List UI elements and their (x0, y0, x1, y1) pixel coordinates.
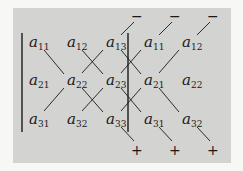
matrix-entries: a11a12a13a11a12a21a22a23a21a22a31a32a33a… (29, 33, 202, 129)
matrix-entry-e12r: a12 (182, 33, 202, 52)
matrix-entry-e22: a22 (67, 71, 87, 90)
minus-sign: − (207, 8, 219, 24)
minus-sign: − (169, 8, 181, 24)
matrix-entry-e32r: a32 (182, 110, 202, 129)
plus-sign: + (169, 142, 181, 158)
matrix-entry-e31r: a31 (144, 110, 164, 129)
matrix-entry-e22r: a22 (182, 71, 202, 90)
matrix-entry-e32: a32 (67, 110, 87, 129)
sarrus-diagram: a11a12a13a11a12a21a22a23a21a22a31a32a33a… (0, 0, 243, 171)
matrix-entry-e31: a31 (29, 110, 49, 129)
plus-sign: + (207, 142, 219, 158)
matrix-entry-e23: a23 (106, 71, 127, 90)
plus-sign: + (131, 142, 143, 158)
matrix-entry-e21: a21 (29, 71, 49, 90)
matrix-entry-e11r: a11 (144, 33, 164, 52)
matrix-entry-e13: a13 (106, 33, 127, 52)
minus-sign: − (131, 8, 143, 24)
matrix-entry-e33: a33 (106, 110, 127, 129)
matrix-entry-e11: a11 (29, 33, 49, 52)
matrix-entry-e21r: a21 (144, 71, 164, 90)
matrix-entry-e12: a12 (67, 33, 87, 52)
